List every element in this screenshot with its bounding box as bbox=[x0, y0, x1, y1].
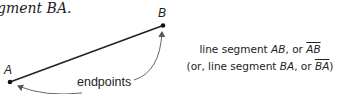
desc2-prefix: (or, line segment bbox=[187, 60, 280, 72]
segment-ab bbox=[10, 26, 163, 83]
desc2-name: BA bbox=[280, 60, 294, 72]
endpoints-label: endpoints bbox=[77, 75, 131, 89]
desc1-notation: AB bbox=[306, 43, 320, 55]
arrow-to-b bbox=[134, 32, 162, 80]
desc1-mid: , or bbox=[285, 43, 306, 55]
desc2-suffix: ) bbox=[329, 60, 333, 72]
arrow-to-a bbox=[18, 86, 82, 94]
description-line-2: (or, line segment BA, or BA) bbox=[180, 60, 340, 72]
desc1-prefix: line segment bbox=[199, 43, 271, 55]
point-a-label: A bbox=[3, 63, 12, 77]
line-segment-diagram: gment BA. A B endpoints line segment AB,… bbox=[0, 0, 340, 94]
endpoint-a-dot bbox=[8, 80, 13, 85]
point-b-label: B bbox=[158, 6, 166, 20]
desc2-mid: , or bbox=[294, 60, 315, 72]
desc2-notation: BA bbox=[315, 60, 329, 72]
description-line-1: line segment AB, or AB bbox=[180, 43, 340, 55]
endpoint-b-dot bbox=[161, 23, 166, 28]
desc1-name: AB bbox=[271, 43, 285, 55]
